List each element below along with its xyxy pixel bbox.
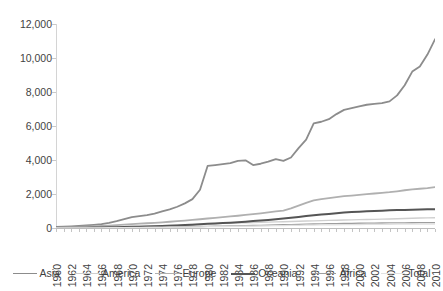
legend-item-oceania[interactable]: Oceania [231, 268, 297, 279]
legend-label: Europe [182, 268, 216, 279]
legend-item-europe[interactable]: Europe [155, 268, 216, 279]
legend-label: Africa [339, 268, 366, 279]
legend-label: Asia [40, 268, 60, 279]
y-tick-mark [52, 160, 56, 161]
x-tick-mark [435, 229, 436, 232]
x-axis-line [56, 228, 435, 229]
legend-swatch-icon [13, 273, 37, 274]
plot-area [56, 24, 435, 228]
legend-item-america[interactable]: America [75, 268, 141, 279]
legend-label: Oceania [258, 268, 297, 279]
legend-item-africa[interactable]: Africa [312, 268, 366, 279]
legend-swatch-icon [155, 273, 179, 274]
x-axis-labels: 1960196219641966196819701972197419761978… [56, 231, 435, 271]
y-tick-mark [52, 24, 56, 25]
y-tick-mark [52, 126, 56, 127]
legend-item-total[interactable]: Total [381, 268, 430, 279]
legend-swatch-icon [231, 273, 255, 275]
y-tick-mark [52, 92, 56, 93]
line-chart: 02,0004,0006,0008,00010,00012,000 196019… [0, 0, 443, 291]
y-tick-mark [52, 228, 56, 229]
legend-swatch-icon [312, 273, 336, 274]
legend-swatch-icon [75, 273, 99, 274]
legend-label: America [102, 268, 141, 279]
y-tick-mark [52, 194, 56, 195]
series-lines [56, 24, 435, 228]
chart-legend: AsiaAmericaEuropeOceaniaAfricaTotal [0, 268, 443, 279]
legend-swatch-icon [381, 273, 405, 274]
legend-label: Total [408, 268, 430, 279]
series-line-asia [56, 39, 435, 227]
legend-item-asia[interactable]: Asia [13, 268, 60, 279]
y-tick-mark [52, 58, 56, 59]
